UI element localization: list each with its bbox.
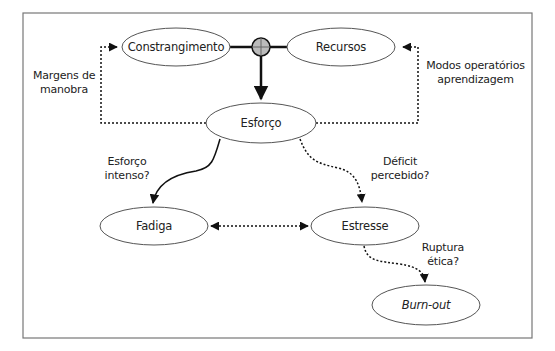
node-label-constrangimento: Constrangimento [128, 40, 225, 54]
diagram-canvas [0, 0, 555, 351]
junction-symbol [252, 38, 270, 56]
edge-label-deficit-line2: percebido? [370, 169, 430, 183]
node-label-estresse: Estresse [342, 219, 389, 233]
edge-label-modos-line2: aprendizagem [423, 73, 528, 87]
edge-label-margens-line1: Margens de [33, 69, 95, 83]
edge-estresse-burnout [364, 246, 425, 282]
edge-label-deficit-line1: Déficit [370, 155, 430, 169]
edge-label-modos-line1: Modos operatórios [423, 59, 528, 73]
node-label-esforco: Esforço [241, 116, 282, 130]
edge-label-ruptura-line1: Ruptura [418, 241, 468, 255]
edge-label-margens: Margens de manobra [33, 69, 95, 97]
edge-esforco-fadiga [153, 139, 220, 203]
node-label-recursos: Recursos [316, 40, 366, 54]
edge-label-ruptura: Ruptura ética? [418, 241, 468, 269]
edge-label-margens-line2: manobra [33, 83, 95, 97]
edge-label-esforco-intenso-line2: intenso? [104, 169, 150, 183]
edge-esforco-estresse [300, 139, 362, 202]
edge-label-ruptura-line2: ética? [418, 255, 468, 269]
edge-label-esforco-intenso-line1: Esforço [104, 155, 150, 169]
edge-label-esforco-intenso: Esforço intenso? [104, 155, 150, 183]
edge-label-modos: Modos operatórios aprendizagem [423, 59, 528, 87]
edge-label-deficit: Déficit percebido? [370, 155, 430, 183]
node-label-burnout: Burn-out [402, 298, 451, 312]
node-label-fadiga: Fadiga [136, 219, 172, 233]
